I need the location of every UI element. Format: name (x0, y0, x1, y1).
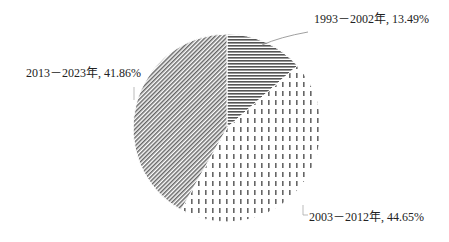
leader-line-slice1 (262, 32, 308, 45)
pie-chart (0, 0, 449, 242)
pie-slices (133, 34, 321, 222)
slice-label-2013-2023: 2013－2023年, 41.86% (26, 63, 141, 81)
slice-label-1993-2002: 1993－2002年, 13.49% (314, 9, 429, 27)
slice-label-2003-2012: 2003－2012年, 44.65% (309, 207, 424, 225)
leader-line-slice2 (303, 205, 308, 215)
